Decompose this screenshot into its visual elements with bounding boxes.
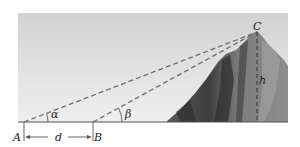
label-point-b: B [93, 131, 102, 144]
label-point-a: A [12, 131, 21, 144]
label-angle-beta: β [124, 108, 131, 121]
label-height: h [259, 74, 266, 87]
label-distance: d [55, 131, 62, 144]
label-point-c: C [253, 20, 262, 33]
label-angle-alpha: α [51, 108, 59, 121]
arrowhead-right-icon [87, 135, 92, 139]
arrowhead-left-icon [25, 135, 30, 139]
mountain-height-diagram: A B C d h α β [0, 0, 300, 147]
